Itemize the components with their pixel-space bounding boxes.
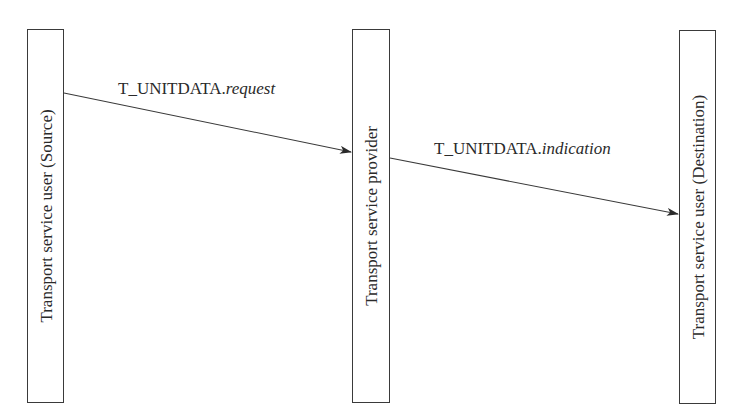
request-label: T_UNITDATA.request <box>118 80 275 97</box>
request-arrow <box>64 93 351 152</box>
request-primitive: T_UNITDATA. <box>118 79 226 98</box>
indication-type: indication <box>542 139 611 158</box>
request-type: request <box>226 79 275 98</box>
indication-label: T_UNITDATA.indication <box>434 140 611 157</box>
indication-primitive: T_UNITDATA. <box>434 139 542 158</box>
indication-arrow <box>390 158 678 214</box>
message-arrows <box>0 0 738 418</box>
